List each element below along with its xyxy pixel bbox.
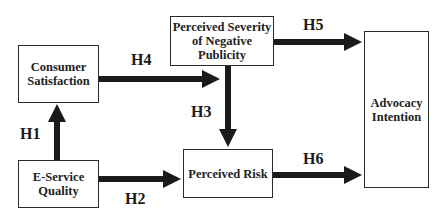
node-label: Perceived Risk (188, 167, 267, 181)
node-advocacy-intention: Advocacy Intention (364, 31, 429, 188)
edge-label-h2: H2 (125, 190, 145, 208)
edge-label-h5: H5 (303, 16, 323, 34)
node-e-service-quality: E-Service Quality (18, 160, 99, 208)
node-label: Consumer Satisfaction (19, 60, 98, 88)
node-label: Advocacy Intention (365, 96, 428, 124)
node-consumer-satisfaction: Consumer Satisfaction (18, 45, 99, 103)
node-label: Perceived Severity of Negative Publicity (171, 20, 273, 62)
node-perceived-risk: Perceived Risk (183, 149, 273, 198)
node-perceived-severity: Perceived Severity of Negative Publicity (170, 16, 274, 66)
edge-label-h1: H1 (20, 125, 40, 143)
edge-label-h3: H3 (191, 103, 211, 121)
edge-label-h4: H4 (131, 51, 151, 69)
node-label: E-Service Quality (19, 170, 98, 198)
edge-label-h6: H6 (303, 150, 323, 168)
